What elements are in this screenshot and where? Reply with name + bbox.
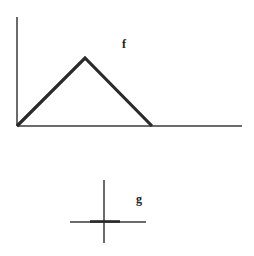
- plot-g: g: [70, 180, 146, 243]
- plot-f: f: [17, 17, 242, 126]
- f-triangle-function: [17, 58, 152, 126]
- diagram-canvas: f g: [0, 0, 254, 256]
- f-label: f: [122, 37, 127, 51]
- g-label: g: [136, 192, 142, 206]
